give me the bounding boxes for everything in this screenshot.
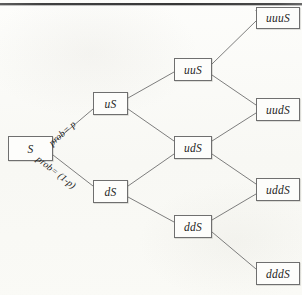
tree-node-uud: uudS <box>256 98 300 121</box>
tree-node-udd: uddS <box>256 178 300 201</box>
tree-edge-dd-to-udd <box>212 194 256 220</box>
binomial-tree-figure: SuSdSuuSudSddSuuuSuudSuddSdddS prob= p p… <box>0 0 302 295</box>
tree-edge-uu-to-uuu <box>212 21 256 64</box>
tree-node-label: dddS <box>266 268 290 280</box>
tree-node-label: ddS <box>184 221 202 233</box>
tree-node-label: dS <box>105 186 117 198</box>
tree-edge-ud-to-uud <box>212 113 256 141</box>
tree-node-label: udS <box>184 142 202 154</box>
tree-edge-d-to-ud <box>128 154 174 186</box>
tree-node-ud: udS <box>174 136 212 159</box>
tree-edge-d-to-dd <box>128 197 174 222</box>
tree-node-label: uuuS <box>266 12 290 24</box>
tree-edge-u-to-ud <box>128 109 174 141</box>
tree-node-label: uudS <box>266 104 290 116</box>
tree-edge-uu-to-uud <box>212 75 256 105</box>
tree-node-uuu: uuuS <box>256 7 300 29</box>
tree-node-uu: uuS <box>174 58 212 81</box>
tree-node-ddd: dddS <box>256 262 300 285</box>
tree-node-label: uuS <box>184 64 202 76</box>
tree-node-label: uS <box>105 98 117 110</box>
tree-node-u: uS <box>93 92 128 115</box>
tree-node-dd: ddS <box>174 215 212 238</box>
tree-edge-u-to-uu <box>128 72 174 98</box>
tree-edge-dd-to-ddd <box>212 232 256 269</box>
tree-node-label: uddS <box>266 184 290 196</box>
tree-node-label: S <box>28 143 34 155</box>
tree-node-d: dS <box>93 180 128 203</box>
tree-edge-ud-to-udd <box>212 154 256 184</box>
